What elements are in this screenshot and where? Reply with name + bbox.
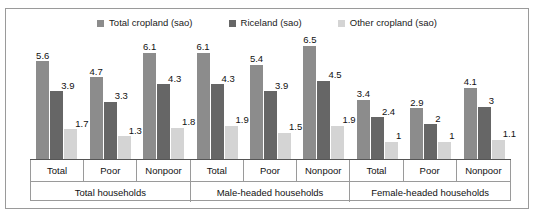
bar-value-label: 5.6 (36, 51, 49, 61)
x-axis-category-cell: Total (31, 160, 84, 181)
bar-other-cropland: 1.7 (64, 129, 77, 159)
bar-value-label: 4.3 (222, 74, 235, 84)
bar-value-label: 4.1 (464, 77, 477, 87)
x-axis-category-cell: Total (191, 160, 244, 181)
legend-swatch-riceland (229, 20, 236, 27)
bar-other-cropland: 1.9 (331, 126, 344, 159)
legend-item-riceland: Riceland (sao) (229, 18, 302, 28)
bar-riceland: 2.4 (371, 117, 384, 159)
bar-value-label: 1 (449, 131, 454, 141)
bar-total-cropland: 2.9 (410, 108, 423, 159)
bar-total-cropland: 6.1 (197, 53, 210, 159)
chart-figure: Total cropland (sao) Riceland (sao) Othe… (5, 8, 529, 209)
bar-total-cropland: 4.7 (90, 77, 103, 159)
bar-cluster: 4.131.1 (464, 37, 505, 159)
x-axis-category-cell: Nonpoor (297, 160, 350, 181)
bar-value-label: 1.1 (503, 129, 516, 139)
bar-value-label: 1 (396, 131, 401, 141)
bar-other-cropland: 1 (385, 142, 398, 159)
bar-value-label: 6.1 (196, 42, 209, 52)
y-axis-line (30, 37, 31, 159)
bar-value-label: 3.9 (61, 81, 74, 91)
bar-value-label: 3 (489, 96, 494, 106)
bar-total-cropland: 5.6 (36, 61, 49, 159)
bar-total-cropland: 6.5 (303, 46, 316, 159)
bar-value-label: 4.5 (328, 70, 341, 80)
bar-riceland: 4.5 (317, 81, 330, 159)
chart-legend: Total cropland (sao) Riceland (sao) Othe… (6, 15, 528, 31)
x-axis-group-cell: Total households (31, 182, 191, 202)
x-axis-category-cell: Total (350, 160, 403, 181)
x-axis-category-cell: Nonpoor (457, 160, 510, 181)
legend-label-riceland: Riceland (sao) (241, 18, 302, 28)
bar-cluster: 6.14.31.8 (143, 37, 184, 159)
bar-value-label: 3.9 (275, 81, 288, 91)
bar-riceland: 4.3 (157, 84, 170, 159)
bar-riceland: 3 (478, 107, 491, 159)
bar-value-label: 6.5 (303, 35, 316, 45)
bar-value-label: 6.1 (143, 42, 156, 52)
bar-cluster: 3.42.41 (357, 37, 398, 159)
legend-swatch-total-cropland (97, 20, 104, 27)
bar-total-cropland: 4.1 (464, 88, 477, 159)
bar-value-label: 1.3 (129, 126, 142, 136)
bar-total-cropland: 5.4 (250, 65, 263, 159)
bar-other-cropland: 1 (438, 142, 451, 159)
bar-value-label: 1.7 (75, 119, 88, 129)
bar-riceland: 3.3 (104, 102, 117, 160)
bar-value-label: 5.4 (250, 54, 263, 64)
legend-label-other-cropland: Other cropland (sao) (350, 18, 437, 28)
legend-item-total-cropland: Total cropland (sao) (97, 18, 192, 28)
x-axis-group-cell: Male-headed households (191, 182, 351, 202)
bar-cluster: 5.43.91.5 (250, 37, 291, 159)
x-axis-category-row: TotalPoorNonpoorTotalPoorNonpoorTotalPoo… (31, 160, 510, 181)
bar-cluster: 5.63.91.7 (36, 37, 77, 159)
bar-value-label: 1.5 (289, 122, 302, 132)
bar-value-label: 4.7 (90, 67, 103, 77)
x-axis-category-cell: Nonpoor (137, 160, 190, 181)
legend-item-other-cropland: Other cropland (sao) (338, 18, 437, 28)
bar-total-cropland: 6.1 (143, 53, 156, 159)
bar-other-cropland: 1.5 (278, 133, 291, 159)
bar-other-cropland: 1.1 (492, 140, 505, 159)
bar-cluster: 2.921 (410, 37, 451, 159)
bar-value-label: 1.9 (342, 115, 355, 125)
bar-value-label: 1.9 (236, 115, 249, 125)
bar-other-cropland: 1.9 (225, 126, 238, 159)
legend-label-total-cropland: Total cropland (sao) (109, 18, 192, 28)
bar-value-label: 1.8 (182, 117, 195, 127)
bar-other-cropland: 1.8 (171, 128, 184, 159)
bar-total-cropland: 3.4 (357, 100, 370, 159)
bar-value-label: 3.3 (115, 91, 128, 101)
bar-cluster: 4.73.31.3 (90, 37, 131, 159)
chart-plot-area: 5.63.91.74.73.31.36.14.31.86.14.31.95.43… (30, 37, 518, 159)
x-axis-group-row: Total householdsMale-headed householdsFe… (31, 181, 510, 202)
bar-value-label: 4.3 (168, 74, 181, 84)
bar-riceland: 2 (424, 124, 437, 159)
bar-riceland: 3.9 (264, 91, 277, 159)
bar-cluster: 6.54.51.9 (303, 37, 344, 159)
bar-riceland: 4.3 (211, 84, 224, 159)
x-axis-category-cell: Poor (244, 160, 297, 181)
x-axis-category-cell: Poor (84, 160, 137, 181)
legend-swatch-other-cropland (338, 20, 345, 27)
x-axis-category-cell: Poor (404, 160, 457, 181)
bar-other-cropland: 1.3 (118, 136, 131, 159)
bar-value-label: 3.4 (357, 89, 370, 99)
bar-cluster: 6.14.31.9 (197, 37, 238, 159)
x-axis-label-table: TotalPoorNonpoorTotalPoorNonpoorTotalPoo… (30, 160, 511, 201)
bar-riceland: 3.9 (50, 91, 63, 159)
bar-value-label: 2.9 (410, 98, 423, 108)
bar-value-label: 2 (435, 114, 440, 124)
x-axis-group-cell: Female-headed households (350, 182, 510, 202)
bar-value-label: 2.4 (382, 107, 395, 117)
